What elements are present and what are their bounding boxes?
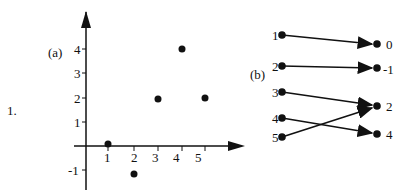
arrow-2-to-neg1	[282, 66, 372, 68]
mapping-diagram	[279, 32, 380, 140]
x-tick-label: 1	[104, 151, 111, 164]
domain-label: 3	[272, 86, 279, 99]
y-tick-label: 2	[74, 92, 81, 105]
data-point	[155, 96, 162, 103]
y-tick-label: 4	[74, 43, 81, 56]
problem-number: 1.	[7, 104, 17, 117]
y-tick-label: 1	[74, 116, 81, 129]
part-b-label: (b)	[250, 68, 265, 81]
y-tick-label: 3	[74, 67, 81, 80]
arrow-5-to-2	[282, 108, 372, 137]
y-tick-label: -1	[68, 164, 79, 177]
data-point	[131, 171, 138, 178]
x-axis-arrow-icon	[228, 141, 245, 151]
codomain-label: 2	[386, 100, 393, 113]
x-tick-label: 3	[152, 151, 159, 164]
data-point	[105, 141, 112, 148]
codomain-label: -1	[383, 63, 394, 76]
data-point	[179, 46, 186, 53]
part-a-label: (a)	[48, 46, 62, 59]
domain-label: 2	[272, 60, 279, 73]
domain-label: 5	[272, 131, 279, 144]
arrow-4-to-4	[282, 118, 372, 133]
codomain-label: 0	[386, 38, 393, 51]
x-tick-label: 5	[195, 151, 202, 164]
figure-canvas	[0, 0, 400, 196]
x-tick-label: 2	[131, 151, 138, 164]
y-axis-arrow-icon	[81, 11, 91, 28]
data-point	[202, 95, 209, 102]
scatter-plot	[74, 11, 245, 190]
domain-label: 4	[272, 112, 279, 125]
arrow-3-to-2	[282, 92, 372, 105]
x-tick-label: 4	[173, 151, 180, 164]
codomain-label: 4	[386, 128, 393, 141]
arrow-1-to-0	[282, 35, 372, 44]
domain-label: 1	[272, 29, 279, 42]
